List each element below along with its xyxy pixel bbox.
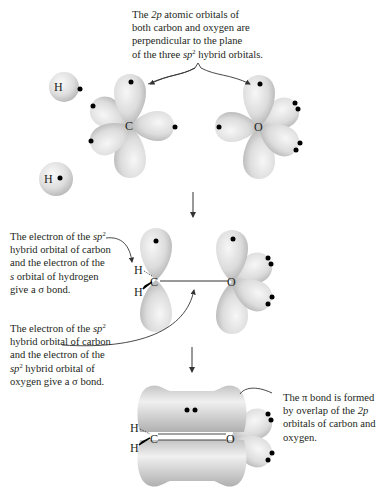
caption-line: oxygen. xyxy=(283,431,376,444)
caption-line: orbitals of carbon and xyxy=(283,417,376,430)
carbon-label: C xyxy=(125,119,133,133)
oxygen-label: O xyxy=(254,120,263,134)
caption-line: The electron of the sp2 xyxy=(10,230,111,243)
caption-line: perpendicular to the plane xyxy=(132,34,263,47)
caption-line: hybrid orbital of carbon xyxy=(10,335,111,348)
callout-brace xyxy=(148,63,250,84)
electron-dot xyxy=(78,87,83,92)
pi-bond-orbitals xyxy=(138,385,278,486)
electron-dot xyxy=(58,176,63,181)
caption-line: oxygen give a σ bond. xyxy=(10,375,111,388)
oxygen-orbitals-step2 xyxy=(216,230,278,334)
caption-top: The 2p atomic orbitals of both carbon an… xyxy=(132,8,263,61)
caption-line: of the three sp2 hybrid orbitals. xyxy=(132,48,263,61)
oxygen-label: O xyxy=(226,432,235,446)
caption-line: give a σ bond. xyxy=(10,283,111,296)
hydrogen-label: H xyxy=(134,285,143,299)
hydrogen-atom-1: H xyxy=(49,72,83,102)
carbon-orbitals-step1: C xyxy=(84,74,177,178)
caption-line: The π bond is formed xyxy=(283,391,376,404)
oxygen-label: O xyxy=(227,275,236,289)
carbon-label: C xyxy=(150,432,158,446)
caption-line: sp2 hybrid orbital of xyxy=(10,362,111,375)
caption-line: and the electron of the xyxy=(10,256,111,269)
hydrogen-label: H xyxy=(54,80,63,94)
hydrogen-label: H xyxy=(130,421,139,435)
oxygen-orbitals-step1: O xyxy=(215,75,305,179)
caption-line: by overlap of the 2p xyxy=(283,404,376,417)
caption-line: The 2p atomic orbitals of xyxy=(132,8,263,21)
hydrogen-label: H xyxy=(44,172,53,186)
hydrogen-label: H xyxy=(134,263,143,277)
caption-line: s orbital of hydrogen xyxy=(10,270,111,283)
hydrogen-label: H xyxy=(130,441,139,455)
callout-arrow-pi xyxy=(240,388,272,394)
caption-line: The electron of the sp2 xyxy=(10,322,111,335)
caption-middle-lower: The electron of the sp2 hybrid orbital o… xyxy=(10,322,111,388)
caption-middle-upper: The electron of the sp2 hybrid orbital o… xyxy=(10,230,111,296)
caption-bottom: The π bond is formed by overlap of the 2… xyxy=(283,391,376,444)
hydrogen-atom-2: H xyxy=(39,162,73,196)
caption-line: and the electron of the xyxy=(10,348,111,361)
caption-line: hybrid orbital of carbon xyxy=(10,243,111,256)
caption-line: both carbon and oxygen are xyxy=(132,21,263,34)
